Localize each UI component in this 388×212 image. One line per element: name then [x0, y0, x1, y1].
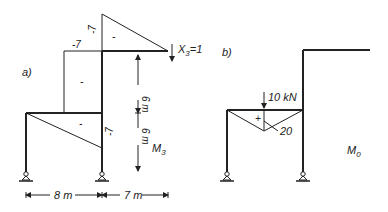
value-top-vertical: -7 — [87, 25, 98, 34]
dim-upper-height: 6 m — [140, 96, 151, 113]
sign-left-rect: - — [80, 76, 84, 87]
load-label-10kn: 10 kN — [268, 91, 297, 103]
peak-value: 20 — [279, 125, 293, 137]
diagram-name-m3: M3 — [152, 142, 166, 157]
value-lower-right: -7 — [104, 127, 115, 136]
value-left-horizontal: -7 — [72, 39, 81, 50]
panel-a-label: a) — [22, 66, 32, 78]
sign-plus: + — [255, 113, 261, 124]
dim-right-span: 7 m — [124, 189, 142, 201]
panel-a: a) - - - -7 -7 -7 X3=1 — [19, 14, 202, 201]
diagram-name-m0: M0 — [347, 144, 361, 159]
moment-diagrams: a) - - - -7 -7 -7 X3=1 — [0, 0, 388, 212]
vertical-dimensions — [135, 55, 141, 171]
supports-b — [220, 172, 310, 181]
dim-lower-height: 6 m — [140, 128, 151, 145]
dim-left-span: 8 m — [54, 189, 72, 201]
supports-a — [19, 172, 109, 181]
sign-lower-triangle: - — [79, 118, 83, 129]
panel-b-label: b) — [222, 46, 232, 58]
load-label-x3: X3=1 — [177, 43, 202, 58]
sign-upper-triangle: - — [112, 31, 116, 42]
panel-b: b) 10 kN + 20 M0 — [220, 46, 370, 181]
horizontal-dimensions — [26, 192, 168, 198]
